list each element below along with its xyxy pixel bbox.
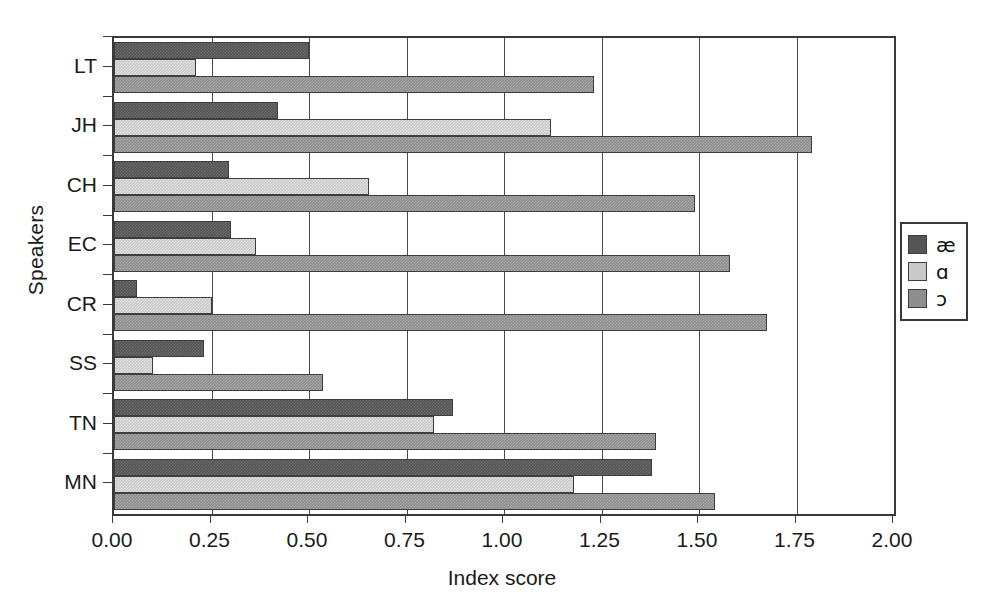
x-tick-label-0.75: 0.75 <box>355 529 455 550</box>
x-tick-label-2.00: 2.00 <box>842 529 942 550</box>
y-tick-mn <box>103 482 112 483</box>
bar-mn-ae <box>114 459 652 476</box>
bar-lt-ae <box>114 42 309 59</box>
x-tick-0.25 <box>210 514 211 523</box>
bar-group-ss <box>114 336 894 396</box>
legend-swatch-ae <box>908 235 927 254</box>
bar-ss-open-o <box>114 374 323 391</box>
bar-group-mn <box>114 455 894 515</box>
bar-ec-ae <box>114 221 231 238</box>
legend-item-ae[interactable]: æ <box>908 231 960 258</box>
bar-ss-ae <box>114 340 204 357</box>
bar-jh-script-a <box>114 119 551 136</box>
chart-legend: æɑɔ <box>900 222 968 321</box>
x-tick-label-1.50: 1.50 <box>647 529 747 550</box>
y-tick-boundary <box>103 155 112 156</box>
y-tick-ss <box>103 363 112 364</box>
bar-jh-ae <box>114 102 278 119</box>
plot-area <box>112 36 896 516</box>
y-tick-label-cr: CR <box>11 293 97 314</box>
y-tick-label-tn: TN <box>11 412 97 433</box>
y-tick-boundary <box>103 453 112 454</box>
y-tick-label-ss: SS <box>11 352 97 373</box>
legend-swatch-script-a <box>908 262 927 281</box>
x-tick-label-0.25: 0.25 <box>160 529 260 550</box>
bar-mn-script-a <box>114 476 574 493</box>
bar-group-ec <box>114 217 894 277</box>
bar-ec-script-a <box>114 238 256 255</box>
legend-swatch-open-o <box>908 289 927 308</box>
bar-cr-ae <box>114 280 137 297</box>
x-tick-0.75 <box>405 514 406 523</box>
bar-group-jh <box>114 98 894 158</box>
y-tick-tn <box>103 423 112 424</box>
bar-lt-open-o <box>114 76 594 93</box>
y-tick-label-ec: EC <box>11 233 97 254</box>
x-tick-label-1.00: 1.00 <box>452 529 552 550</box>
x-tick-1.00 <box>502 514 503 523</box>
bar-tn-script-a <box>114 416 434 433</box>
x-tick-1.25 <box>600 514 601 523</box>
y-tick-boundary <box>103 36 112 37</box>
x-tick-1.50 <box>697 514 698 523</box>
bar-group-tn <box>114 395 894 455</box>
bar-jh-open-o <box>114 136 812 153</box>
legend-item-open-o[interactable]: ɔ <box>908 285 960 312</box>
y-tick-label-jh: JH <box>11 114 97 135</box>
y-tick-cr <box>103 304 112 305</box>
legend-label-ae: æ <box>936 235 956 255</box>
y-tick-label-lt: LT <box>11 55 97 76</box>
x-tick-1.75 <box>795 514 796 523</box>
y-tick-ec <box>103 244 112 245</box>
y-tick-label-mn: MN <box>11 471 97 492</box>
bar-ch-open-o <box>114 195 695 212</box>
x-tick-label-0.50: 0.50 <box>257 529 357 550</box>
y-tick-lt <box>103 66 112 67</box>
x-tick-0.50 <box>307 514 308 523</box>
bar-ss-script-a <box>114 357 153 374</box>
x-tick-2.00 <box>892 514 893 523</box>
y-tick-jh <box>103 125 112 126</box>
plot-inner <box>114 38 894 514</box>
bar-ec-open-o <box>114 255 730 272</box>
y-tick-label-ch: CH <box>11 174 97 195</box>
x-tick-label-1.75: 1.75 <box>745 529 845 550</box>
y-tick-boundary <box>103 334 112 335</box>
legend-label-script-a: ɑ <box>936 262 949 282</box>
bar-tn-ae <box>114 399 453 416</box>
x-axis-title: Index score <box>112 566 892 590</box>
y-tick-ch <box>103 185 112 186</box>
y-tick-boundary <box>103 96 112 97</box>
x-tick-0.00 <box>112 514 113 523</box>
bar-ch-script-a <box>114 178 369 195</box>
bar-lt-script-a <box>114 59 196 76</box>
legend-label-open-o: ɔ <box>936 289 947 309</box>
y-tick-boundary <box>103 393 112 394</box>
bar-chart-figure: Speakers LTJHCHECCRSSTNMN0.000.250.500.7… <box>0 0 994 608</box>
bar-cr-open-o <box>114 314 767 331</box>
legend-item-script-a[interactable]: ɑ <box>908 258 960 285</box>
bar-group-cr <box>114 276 894 336</box>
bar-tn-open-o <box>114 433 656 450</box>
y-tick-boundary <box>103 274 112 275</box>
y-tick-boundary <box>103 215 112 216</box>
bar-group-ch <box>114 157 894 217</box>
bar-group-lt <box>114 38 894 98</box>
bar-ch-ae <box>114 161 229 178</box>
bar-cr-script-a <box>114 297 212 314</box>
x-tick-label-1.25: 1.25 <box>550 529 650 550</box>
x-tick-label-0.00: 0.00 <box>62 529 162 550</box>
bar-mn-open-o <box>114 493 715 510</box>
